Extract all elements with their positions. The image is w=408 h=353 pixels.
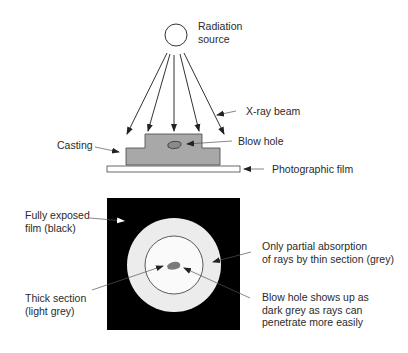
xray-beam-arrows (127, 53, 224, 134)
thick-section-label: Thick section (light grey) (25, 292, 86, 317)
blow-hole-label: Blow hole (238, 135, 284, 148)
partial-absorption-label: Only partial absorption of rays by thin … (262, 240, 394, 265)
photographic-film-label: Photographic film (272, 163, 353, 176)
photographic-film (107, 166, 240, 172)
radiograph-image (107, 198, 240, 330)
casting-label: Casting (57, 139, 93, 152)
xray-beam-label: X-ray beam (246, 105, 300, 118)
casting-shape (126, 134, 220, 165)
radiation-source-icon (165, 24, 187, 46)
xray-beam-pointer (217, 111, 236, 115)
blow-hole-shape (168, 141, 181, 148)
blow-hole-result-label: Blow hole shows up as dark grey as rays … (262, 291, 369, 329)
radiation-source-label: Radiation source (198, 20, 242, 45)
casting-pointer (95, 147, 119, 152)
fully-exposed-label: Fully exposed film (black) (25, 209, 90, 234)
